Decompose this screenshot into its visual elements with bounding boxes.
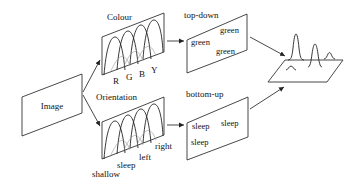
colour-feature-map: Colour R G B Y bbox=[102, 12, 164, 86]
channel-right: right bbox=[155, 141, 172, 151]
saliency-diagram: Image Colour R G B Y Orientation shallow… bbox=[0, 0, 357, 185]
channel-shallow: shallow bbox=[92, 169, 120, 179]
orientation-feature-map: Orientation shallow sleep left right bbox=[92, 92, 172, 179]
arrow-topdown-to-saliency bbox=[250, 37, 285, 56]
channel-g: G bbox=[126, 72, 133, 82]
bottom-up-word-3: sleep bbox=[191, 137, 208, 147]
image-label: Image bbox=[41, 101, 64, 111]
channel-b: B bbox=[139, 69, 145, 79]
channel-r: R bbox=[113, 76, 119, 86]
saliency-peak-large bbox=[288, 34, 304, 60]
saliency-map bbox=[268, 34, 343, 82]
bottom-up-title: bottom-up bbox=[186, 89, 224, 99]
bottom-up-word-2: sleep bbox=[221, 118, 238, 128]
top-down-word-3: green bbox=[216, 46, 236, 56]
arrow-bottomup-to-saliency bbox=[250, 87, 284, 109]
channel-left: left bbox=[139, 152, 151, 162]
saliency-peak-tiny bbox=[324, 53, 335, 60]
top-down-word-1: green bbox=[220, 25, 240, 35]
arrow-image-to-colour bbox=[83, 60, 100, 92]
top-down-word-2: green bbox=[191, 37, 211, 47]
bottom-up-map: bottom-up sleep sleep sleep bbox=[186, 89, 248, 160]
top-down-title: top-down bbox=[184, 10, 219, 20]
image-plane: Image bbox=[22, 74, 82, 136]
top-down-map: top-down green green green bbox=[184, 10, 247, 73]
bottom-up-word-1: sleep bbox=[192, 121, 209, 131]
channel-sleep: sleep bbox=[117, 160, 136, 170]
orientation-title: Orientation bbox=[96, 92, 137, 102]
colour-title: Colour bbox=[107, 12, 132, 22]
channel-y: Y bbox=[151, 65, 158, 75]
